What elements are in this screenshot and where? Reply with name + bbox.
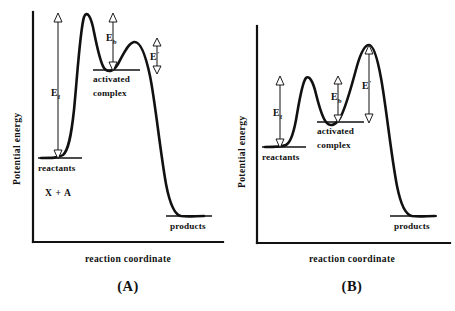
panel-a-products-label: products — [170, 221, 206, 231]
panel-b-eb-base: E — [331, 91, 338, 102]
panel-b-activated-label: activated — [317, 126, 354, 136]
panel-a-ef-base: E — [51, 87, 58, 98]
panel-b-eprime-base: E — [362, 80, 369, 91]
panel-a-reactants-label: reactants — [38, 163, 76, 173]
panel-b-ef-sub: f — [280, 113, 283, 120]
panel-a-y-axis-label: Potential energy — [11, 113, 22, 185]
panel-b-ef-base: E — [273, 107, 280, 118]
panel-a-eprime-label: E ' — [150, 50, 160, 62]
panel-b-y-axis-label: Potential energy — [236, 116, 247, 188]
panel-a-complex-label: complex — [93, 88, 127, 98]
panel-a-ef-arrow — [54, 13, 62, 159]
panel-a-eb-sub: b — [113, 38, 117, 45]
panel-b-eprime-label: E ' — [362, 79, 372, 91]
panel-a-x-axis-label: reaction coordinate — [85, 253, 172, 264]
panel-b-complex-label: complex — [317, 140, 351, 150]
panel-a-caption: (A) — [117, 278, 139, 295]
panel-b-reactants-label: reactants — [262, 152, 300, 162]
panel-b-products-label: products — [394, 221, 430, 231]
panel-a-ef-sub: f — [58, 93, 61, 100]
panel-a-activated-label: activated — [93, 74, 130, 84]
panel-b-eb-sub: b — [338, 97, 342, 104]
panel-b-ef-label: E f — [273, 107, 283, 120]
panel-b: E f E b E ' reactants activated complex … — [228, 0, 455, 311]
panel-a-species-label: X + A — [45, 187, 72, 198]
panel-b-eb-label: E b — [331, 91, 342, 104]
panel-a-eb-label: E b — [106, 32, 117, 45]
reaction-coordinate-figure: E f E b E ' reactants activated complex … — [0, 0, 455, 311]
panel-b-caption: (B) — [342, 278, 363, 295]
panel-a-eprime-prime: ' — [158, 50, 160, 57]
panel-b-x-axis-label: reaction coordinate — [309, 253, 396, 264]
panel-a-ef-label: E f — [51, 87, 61, 100]
panel-a: E f E b E ' reactants activated complex … — [0, 0, 228, 311]
panel-a-eprime-base: E — [150, 51, 157, 62]
panel-b-eprime-prime: ' — [370, 79, 372, 86]
panel-a-eb-base: E — [106, 32, 113, 43]
